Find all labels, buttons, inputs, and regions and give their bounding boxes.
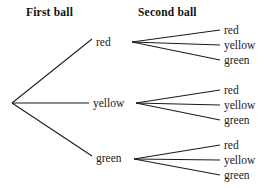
edge-green-to-green <box>134 159 220 175</box>
level-1-node-red: red <box>96 36 111 48</box>
edges-level-1 <box>12 39 92 156</box>
edges-level-2 <box>132 30 220 175</box>
level-1-node-yellow: yellow <box>93 97 124 109</box>
edge-green-to-red <box>134 145 220 159</box>
level-2-node-green-green: green <box>224 169 250 181</box>
edge-green-to-yellow <box>134 159 220 160</box>
level-1-node-green: green <box>96 152 122 164</box>
tree-diagram-canvas: First ball Second ball redyellowgreen re… <box>0 0 270 188</box>
level-2-node-green-yellow: yellow <box>224 154 255 166</box>
level-2-node-yellow-yellow: yellow <box>224 99 255 111</box>
level-2-node-yellow-green: green <box>224 114 250 126</box>
level-2-node-red-yellow: yellow <box>224 39 255 51</box>
edge-root-to-green <box>12 103 92 156</box>
edge-yellow-to-green <box>136 103 220 120</box>
level-2-node-yellow-red: red <box>224 84 239 96</box>
level-2-node-red-green: green <box>224 54 250 66</box>
level-2-node-green-red: red <box>224 139 239 151</box>
edge-red-to-red <box>132 30 220 42</box>
edge-yellow-to-red <box>136 90 220 103</box>
edge-yellow-to-yellow <box>136 103 220 105</box>
level-2-node-red-red: red <box>224 24 239 36</box>
edge-root-to-red <box>12 39 92 103</box>
